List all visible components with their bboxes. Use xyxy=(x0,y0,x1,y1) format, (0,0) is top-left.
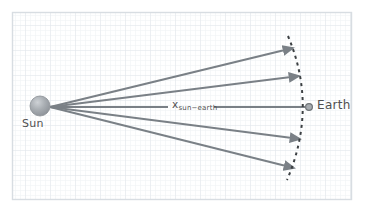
sun-body xyxy=(30,96,50,116)
sun-earth-distance-diagram: Sun Earth xsun−earth xyxy=(0,0,367,216)
sun-label: Sun xyxy=(22,118,44,129)
distance-subscript: sun−earth xyxy=(178,104,217,112)
earth-body xyxy=(306,104,313,111)
distance-label: xsun−earth xyxy=(172,99,217,110)
earth-label: Earth xyxy=(317,99,351,111)
